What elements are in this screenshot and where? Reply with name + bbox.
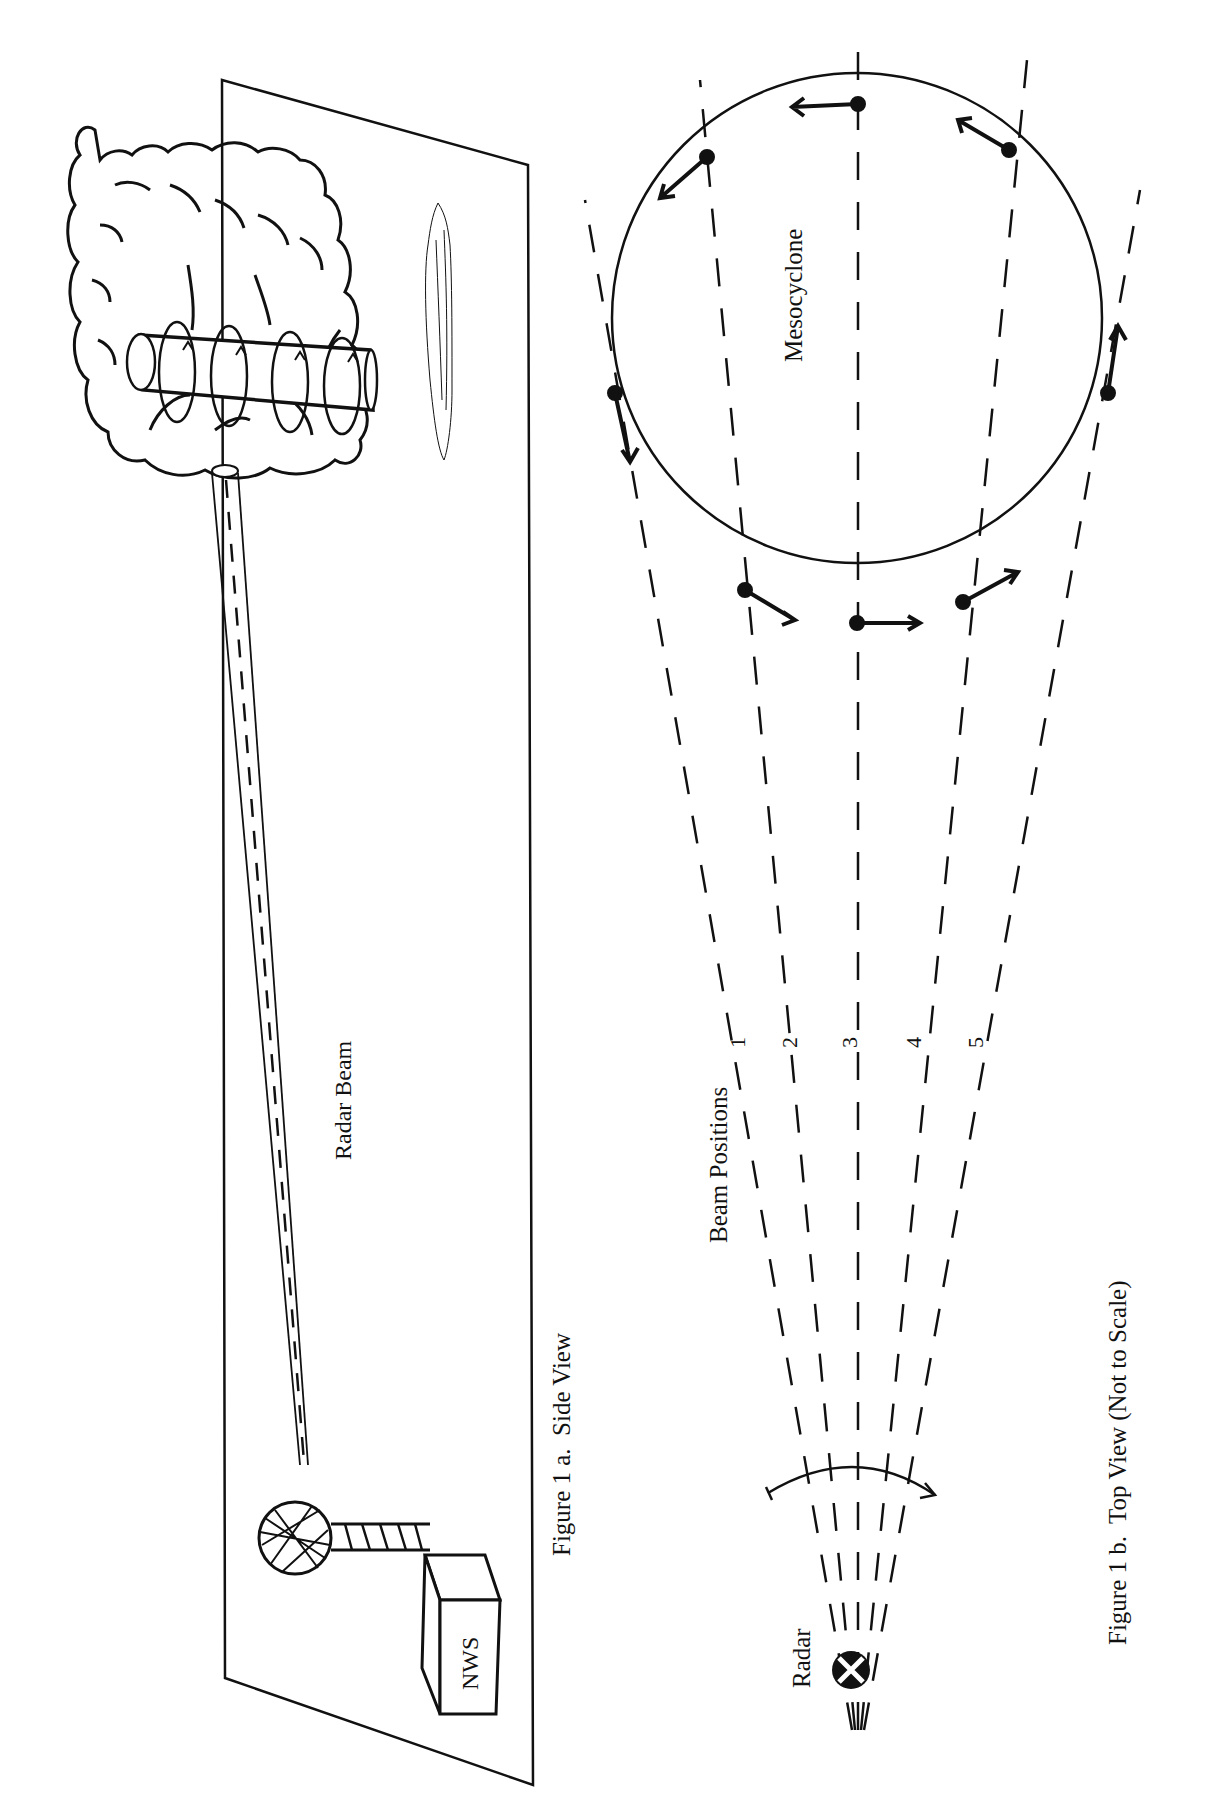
beam-number-3: 3: [837, 1037, 862, 1048]
radar-beam-label: Radar Beam: [330, 1040, 356, 1160]
beam-number-5: 5: [963, 1037, 988, 1048]
beam-line-1: [585, 200, 852, 1730]
radar-dome: [259, 1502, 430, 1574]
figure-1b-caption: Figure 1 b. Top View (Not to Scale): [1104, 1280, 1132, 1645]
thunderstorm-cloud: [68, 127, 367, 478]
beam-line-5: [864, 190, 1140, 1730]
beam-number-2: 2: [777, 1037, 802, 1048]
rotating-updraft-cylinder: [127, 322, 377, 434]
figure-1a-side-view: [68, 80, 533, 1785]
radar-label: Radar: [788, 1628, 815, 1688]
beam-position-lines: [585, 50, 1140, 1730]
beam-positions-label: Beam Positions: [705, 1087, 732, 1243]
wind-vectors: [609, 98, 1126, 630]
beam-line-2: [700, 80, 855, 1730]
beam-line-4: [861, 50, 1028, 1730]
beam-number-4: 4: [901, 1037, 926, 1048]
figure-canvas: NWS Radar Beam Figure 1 a. Side View: [0, 0, 1214, 1818]
figure-1b-top-view: [585, 50, 1140, 1730]
radar-beam-tube: [212, 465, 308, 1465]
mesocyclone-label: Mesocyclone: [780, 229, 807, 362]
radar-symbol-icon: [832, 1651, 870, 1689]
nws-label: NWS: [457, 1637, 483, 1690]
beam-number-1: 1: [725, 1037, 750, 1048]
figure-1a-caption: Figure 1 a. Side View: [548, 1333, 575, 1556]
cloud-shadow: [426, 203, 452, 460]
